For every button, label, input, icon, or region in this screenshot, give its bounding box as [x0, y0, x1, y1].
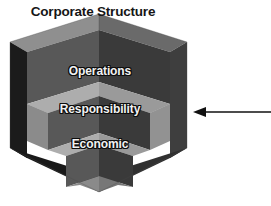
tier-label-responsibility: Responsibility: [34, 102, 166, 116]
cube-outer-left-face: [10, 42, 27, 158]
left-arrow-icon: [193, 107, 271, 117]
figure-title: Corporate Structure: [0, 4, 186, 19]
cube-outer-right-face: [170, 42, 187, 158]
tier-label-operations: Operations: [42, 64, 158, 78]
corporate-structure-figure: Corporate Structure: [0, 0, 271, 206]
tier-label-economic: Economic: [42, 137, 158, 151]
